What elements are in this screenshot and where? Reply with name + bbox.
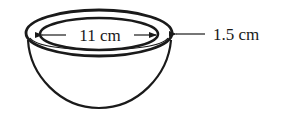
thickness-label: 1.5 cm <box>213 25 259 44</box>
hemispherical-bowl-diagram: 11 cm 1.5 cm <box>0 0 292 114</box>
inner-diameter-label: 11 cm <box>79 26 120 45</box>
